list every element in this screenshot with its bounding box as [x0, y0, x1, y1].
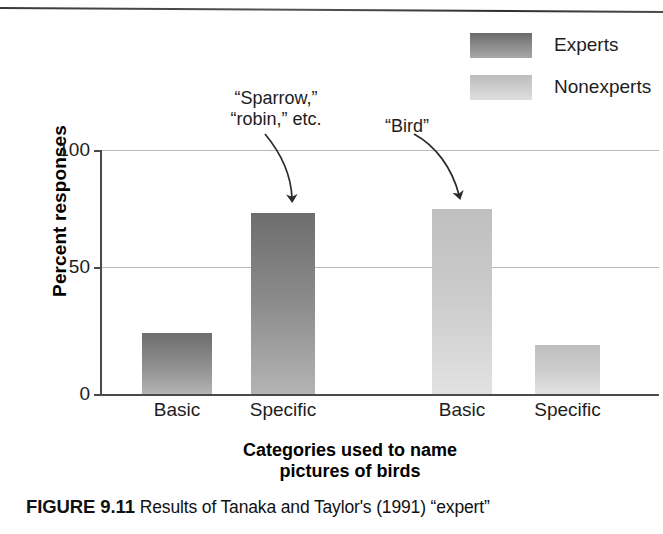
y-axis-line	[100, 150, 102, 396]
y-tick-label-100: 100	[44, 139, 90, 161]
y-tick-label-0: 0	[44, 383, 90, 405]
x-axis-title: Categories used to name pictures of bird…	[140, 440, 560, 482]
legend-item-nonexperts: Nonexperts	[470, 70, 660, 104]
y-axis-tick-100	[94, 150, 101, 152]
figure-caption: FIGURE 9.11 Results of Tanaka and Taylor…	[26, 496, 646, 518]
page-top-rule	[0, 7, 663, 13]
gridline-100	[101, 150, 659, 151]
annotation-sparrow-robin: “Sparrow,” “robin,” etc.	[186, 88, 366, 130]
y-axis-title: Percent responses	[49, 96, 71, 326]
y-axis-tick-50	[94, 267, 101, 269]
chart-legend: Experts Nonexperts	[470, 28, 660, 112]
bar-nonexperts-basic	[432, 209, 492, 394]
x-axis-line	[95, 394, 659, 396]
x-tick-label-0: Basic	[117, 399, 237, 421]
arrow-to-experts-specific	[265, 134, 292, 198]
legend-swatch-nonexperts	[470, 75, 532, 100]
legend-item-experts: Experts	[470, 28, 660, 62]
arrow-to-nonexperts-basic	[414, 134, 459, 195]
legend-swatch-experts	[470, 33, 532, 58]
bar-nonexperts-specific	[535, 345, 600, 394]
bar-experts-specific	[251, 213, 315, 394]
annotation-bird: “Bird”	[352, 116, 462, 137]
legend-label-nonexperts: Nonexperts	[554, 76, 651, 98]
y-tick-label-50: 50	[44, 256, 90, 278]
x-axis-title-line1: Categories used to name	[140, 440, 560, 461]
legend-label-experts: Experts	[554, 34, 618, 56]
x-tick-label-3: Specific	[508, 399, 628, 421]
figure-caption-text: Results of Tanaka and Taylor's (1991) “e…	[140, 497, 490, 517]
x-tick-label-1: Specific	[223, 399, 343, 421]
y-axis-tick-0	[94, 394, 101, 396]
x-axis-title-line2: pictures of birds	[140, 461, 560, 482]
figure-number: FIGURE 9.11	[26, 496, 135, 517]
gridline-50	[101, 267, 659, 268]
bar-experts-basic	[142, 333, 212, 394]
x-tick-label-2: Basic	[402, 399, 522, 421]
